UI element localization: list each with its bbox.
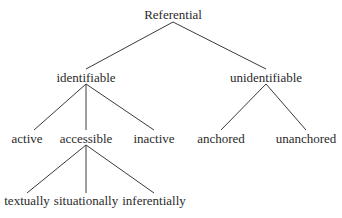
- edge-accessible-inferentially: [86, 145, 154, 193]
- referential-tree-diagram: Referential identifiable unidentifiable …: [0, 0, 342, 218]
- edge-identifiable-active: [34, 84, 86, 130]
- edge-unidentifiable-anchored: [221, 84, 266, 130]
- node-unidentifiable: unidentifiable: [230, 71, 302, 84]
- edge-referential-unidentifiable: [173, 22, 266, 69]
- node-anchored: anchored: [197, 132, 245, 145]
- node-situationally: situationally: [54, 194, 118, 207]
- edge-identifiable-inactive: [86, 84, 154, 130]
- edge-unidentifiable-unanchored: [266, 84, 306, 130]
- edge-referential-identifiable: [86, 22, 173, 69]
- tree-edges: [0, 0, 342, 218]
- node-unanchored: unanchored: [276, 132, 337, 145]
- node-active: active: [11, 132, 42, 145]
- node-textually: textually: [4, 194, 50, 207]
- node-accessible: accessible: [60, 132, 113, 145]
- node-inactive: inactive: [133, 132, 174, 145]
- edge-accessible-textually: [27, 145, 86, 193]
- node-identifiable: identifiable: [56, 71, 115, 84]
- node-referential: Referential: [144, 8, 202, 21]
- node-inferentially: inferentially: [122, 194, 186, 207]
